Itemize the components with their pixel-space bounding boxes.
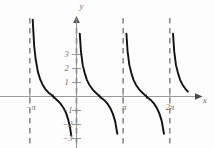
plot-canvas [0,0,214,148]
y-tick-label-3: 3 [65,50,69,59]
y-tick-label-1: 1 [65,78,69,87]
cotangent-branch [80,34,118,134]
cotangent-branch [173,34,188,92]
function-curves [33,20,188,136]
cotangent-graph-figure: 3 2 1 −1 −2 −3 −π π 2π x y [0,0,214,148]
y-tick-label-minus-2: −2 [63,120,73,129]
y-tick-label-minus-1: −1 [63,106,73,115]
y-axis-label: y [80,2,84,11]
x-tick-label-2pi: 2π [166,103,175,112]
cotangent-branch [126,34,164,134]
vertical-asymptotes [30,18,170,144]
y-tick-label-minus-3: −3 [63,134,73,143]
y-tick-label-2: 2 [65,64,69,73]
x-axis-arrowhead [195,93,203,100]
x-tick-label-minus-pi: −π [26,103,36,112]
x-axis-label: x [203,96,207,105]
x-tick-label-pi: π [122,103,126,112]
